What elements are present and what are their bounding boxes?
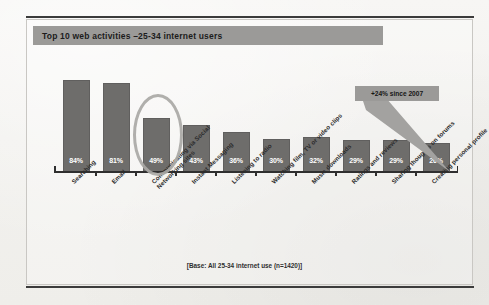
x-axis-tick bbox=[375, 171, 377, 176]
highlight-ellipse-icon bbox=[133, 94, 183, 176]
x-axis-tick bbox=[255, 171, 257, 176]
x-axis-tick bbox=[335, 171, 337, 176]
title-banner: Top 10 web activities –25-34 internet us… bbox=[33, 26, 383, 45]
x-axis-tick bbox=[135, 171, 137, 176]
figure-page: Top 10 web activities –25-34 internet us… bbox=[0, 0, 489, 305]
callout-label: +24% since 2007 bbox=[371, 90, 423, 97]
page-title: Top 10 web activities –25-34 internet us… bbox=[33, 31, 222, 41]
x-axis-cap-right bbox=[457, 166, 459, 172]
bottom-rule bbox=[26, 286, 474, 288]
x-axis-tick bbox=[295, 171, 297, 176]
x-axis-tick bbox=[415, 171, 417, 176]
x-axis-cap-left bbox=[54, 166, 56, 172]
base-note: [Base: All 25-34 internet use (n=1420)] bbox=[0, 262, 489, 269]
bar: 84% bbox=[63, 80, 90, 172]
bar: 81% bbox=[103, 83, 130, 172]
x-axis-tick bbox=[95, 171, 97, 176]
x-axis-tick bbox=[215, 171, 217, 176]
bar-value-label: 81% bbox=[103, 157, 130, 164]
callout-box: +24% since 2007 bbox=[355, 86, 439, 101]
top-rule bbox=[26, 16, 474, 18]
